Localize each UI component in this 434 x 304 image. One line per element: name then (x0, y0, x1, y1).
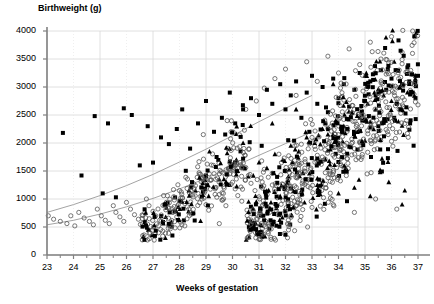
data-point (322, 207, 326, 211)
data-point (353, 152, 357, 156)
data-point (299, 214, 303, 218)
data-point (225, 183, 229, 187)
data-point (228, 156, 232, 160)
data-point (272, 212, 276, 216)
data-point (275, 195, 279, 199)
data-point (270, 121, 275, 126)
data-point (204, 99, 208, 103)
data-point (87, 219, 91, 223)
data-point (326, 54, 330, 58)
data-point (214, 165, 218, 169)
data-point (191, 207, 195, 211)
data-point (257, 113, 261, 117)
data-point (397, 38, 401, 42)
data-point (376, 49, 380, 53)
data-point (346, 161, 350, 165)
data-point (225, 119, 229, 123)
data-point (65, 222, 69, 226)
data-point (396, 149, 400, 153)
data-point (130, 113, 134, 117)
data-point (299, 116, 303, 120)
data-point (206, 194, 211, 199)
data-point (219, 183, 223, 187)
data-point (304, 122, 308, 126)
data-point (246, 199, 251, 204)
data-point (363, 94, 367, 98)
data-point (264, 202, 268, 206)
data-point (310, 156, 314, 160)
data-point (352, 132, 356, 136)
data-point (181, 207, 185, 211)
data-point (143, 207, 147, 211)
data-point (318, 204, 322, 208)
data-point (345, 117, 349, 121)
data-point (310, 74, 314, 78)
data-point (235, 169, 239, 173)
data-point (390, 77, 394, 81)
data-point (212, 130, 216, 134)
data-point (101, 191, 105, 195)
data-point (229, 119, 233, 123)
data-point (388, 124, 392, 128)
data-point (146, 124, 150, 128)
data-point (379, 95, 383, 99)
data-point (298, 218, 302, 222)
data-point (168, 210, 172, 214)
data-point (367, 114, 371, 118)
data-point (257, 232, 261, 236)
data-point (352, 185, 357, 190)
data-point (391, 72, 395, 76)
data-point (352, 210, 356, 214)
data-point (107, 222, 111, 226)
data-point (366, 85, 370, 89)
data-point (414, 117, 418, 121)
data-point (398, 79, 402, 83)
data-point (177, 212, 181, 216)
data-point (350, 153, 354, 157)
data-point (321, 119, 325, 123)
data-point (307, 130, 311, 134)
data-point (275, 181, 279, 185)
data-point (52, 217, 56, 221)
data-point (293, 229, 297, 233)
data-point (311, 183, 315, 187)
data-point (201, 157, 205, 161)
data-point (361, 89, 365, 93)
data-point (404, 105, 408, 109)
data-point (349, 115, 353, 119)
data-point (300, 193, 304, 197)
data-point (371, 78, 375, 82)
data-point (156, 207, 160, 211)
data-point (381, 161, 385, 165)
data-point (122, 106, 126, 110)
data-point (341, 134, 345, 138)
data-point (315, 215, 319, 219)
data-point (184, 169, 188, 173)
data-point (294, 79, 298, 83)
data-point (259, 176, 263, 180)
data-point (310, 170, 314, 174)
data-point (372, 134, 376, 138)
data-point (371, 116, 375, 120)
data-point (334, 121, 338, 125)
data-point (240, 174, 244, 178)
data-point (374, 71, 378, 75)
data-point (361, 143, 365, 147)
data-point (377, 111, 381, 115)
data-point (340, 128, 344, 132)
data-point (301, 208, 305, 212)
data-point (401, 89, 405, 93)
data-point (136, 217, 140, 221)
data-point (305, 91, 309, 95)
data-point (392, 59, 397, 64)
data-point (242, 146, 246, 150)
data-point (199, 185, 203, 189)
data-point (279, 173, 283, 177)
data-point (188, 147, 192, 151)
data-point (275, 175, 279, 179)
data-point (293, 158, 297, 162)
data-point (292, 139, 296, 143)
data-point (399, 49, 403, 53)
data-point (248, 140, 252, 144)
data-point (382, 51, 386, 55)
